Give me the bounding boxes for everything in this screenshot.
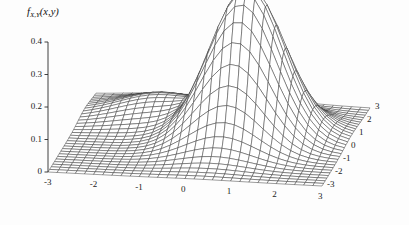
mesh-cell [212,177,223,181]
mesh-cell [210,157,221,164]
mesh-cell [217,164,228,170]
mesh-cell [219,157,230,165]
mesh-cell [240,179,251,182]
mesh-cell [206,169,217,174]
mesh-cell [231,178,242,182]
surface-plot-figure: fX,Y(x,y) 00.10.20.30.4-3-2-10123-3-2-10… [0,0,409,225]
wireframe-mesh [48,0,370,186]
mesh-cell [230,43,241,66]
z-tick-label: 0.1 [31,135,42,144]
mesh-cell [194,176,205,180]
axis-lines [45,42,49,172]
mesh-cell [222,177,233,181]
x-tick-label: -2 [90,180,98,189]
y-tick-label: -1 [343,154,351,163]
y-tick-label: 0 [351,141,356,150]
mesh-cell [213,137,224,149]
mesh-cell [313,183,324,186]
x-tick-label: 3 [318,192,323,201]
mesh-cell [228,64,239,88]
mesh-cell [85,171,96,174]
mesh-cell [225,106,236,125]
x-tick-label: -3 [44,178,52,187]
mesh-cell [224,123,235,139]
mesh-cell [258,180,269,183]
mesh-cell [197,168,208,173]
z-tick-label: 0.4 [31,37,42,46]
mesh-cell [267,180,278,183]
y-tick-label: 1 [359,128,364,137]
y-tick-label: -2 [335,167,343,176]
x-tick-label: 1 [227,187,232,196]
x-tick-label: 2 [272,190,277,199]
mesh-cell [203,176,214,180]
mesh-cell [227,86,238,108]
mesh-cell [211,148,222,157]
y-tick-label: -3 [327,180,335,189]
mesh-cell [220,148,231,158]
mesh-cell [304,182,315,185]
mesh-cell [249,179,260,182]
z-tick-label: 0.2 [31,102,42,111]
x-tick-label: -1 [135,183,143,192]
y-tick-label: 3 [375,102,380,111]
mesh-cell [222,137,233,150]
y-tick-label: 2 [367,115,372,124]
surface-mesh-canvas [0,0,409,225]
mesh-cell [208,163,219,169]
mesh-cell [295,182,306,185]
z-tick-label: 0 [38,167,43,176]
mesh-cell [276,181,287,184]
z-tick-label: 0.3 [31,70,42,79]
x-tick-label: 0 [181,185,186,194]
mesh-cell [285,181,296,184]
